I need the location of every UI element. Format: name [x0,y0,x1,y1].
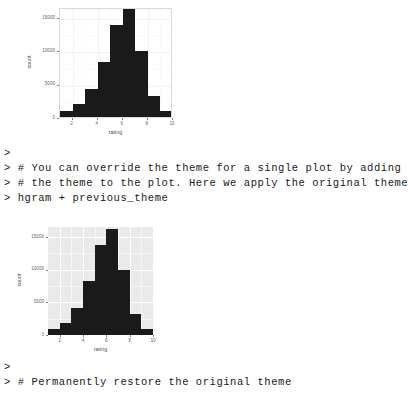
x-axis-tick-mark [72,118,73,120]
x-axis-tick-label: 4 [87,121,107,126]
x-axis-tick-label: 8 [137,121,157,126]
histogram-bar [48,329,60,335]
histogram-bar [160,111,172,117]
y-axis-tick-mark [46,335,48,336]
histogram-bar [60,111,73,117]
console-line: > hgram + previous_theme [4,191,408,206]
x-axis-tick-mark [60,335,61,337]
y-axis-tick-mark [57,51,59,52]
y-axis-tick-mark [57,18,59,19]
x-axis-tick-label: 2 [62,121,82,126]
y-axis-tick-label: 0 [21,115,55,120]
gridline-vertical [73,9,74,117]
x-axis-tick-label: 2 [50,338,70,343]
x-axis-tick-mark [83,335,84,337]
console-line: > # You can override the theme for a sin… [4,161,408,176]
console-line: > # the theme to the plot. Here we apply… [4,176,408,191]
console-line: > [4,360,292,375]
console-block-middle[interactable]: >> # You can override the theme for a si… [4,146,408,206]
x-axis-tick-mark [122,118,123,120]
histogram-bar [110,25,123,117]
x-axis-title: rating [59,129,172,135]
histogram-bar [141,329,153,335]
histogram-bar [135,51,148,117]
x-axis-tick-label: 6 [96,338,116,343]
histogram-plot-bw: 050001000015000246810ratingcount [20,2,180,137]
y-axis-tick-label: 5000 [21,81,55,86]
plot-area-bw: 050001000015000246810ratingcount [20,2,180,137]
x-axis-tick-label: 6 [112,121,132,126]
histogram-bar [106,229,118,335]
y-axis-tick-mark [46,270,48,271]
x-axis-tick-mark [147,118,148,120]
histogram-bar [148,96,161,117]
gridline-horizontal [60,19,171,20]
histogram-bar [71,308,83,335]
histogram-bar [98,62,111,117]
console-block-bottom[interactable]: >> # Permanently restore the original th… [4,360,292,390]
y-axis-tick-mark [46,237,48,238]
x-axis-tick-label: 10 [162,121,182,126]
y-axis-tick-mark [46,302,48,303]
x-axis-tick-mark [97,118,98,120]
y-axis-title: count [26,42,32,82]
y-axis-tick-label: 15000 [21,15,55,20]
x-axis-tick-label: 4 [73,338,93,343]
gridline-horizontal [48,237,153,238]
x-axis-title: rating [48,346,153,352]
x-axis-tick-label: 10 [143,338,163,343]
x-axis-tick-mark [130,335,131,337]
console-line: > # Permanently restore the original the… [4,375,292,390]
histogram-bar [123,9,136,117]
x-axis-tick-label: 8 [120,338,140,343]
plot-panel [59,8,172,118]
x-axis-tick-mark [153,335,154,337]
y-axis-tick-label: 15000 [10,234,44,239]
plot-panel [48,227,153,335]
y-axis-tick-mark [57,85,59,86]
y-axis-title: count [16,260,22,300]
y-axis-tick-mark [57,118,59,119]
histogram-bar [118,270,130,335]
x-axis-tick-mark [172,118,173,120]
histogram-bar [130,314,142,335]
y-axis-tick-label: 0 [10,332,44,337]
histogram-bar [83,281,95,335]
histogram-bar [95,245,107,335]
console-line: > [4,146,408,161]
x-axis-tick-mark [106,335,107,337]
histogram-bar [60,323,72,335]
gridline-vertical [60,227,61,335]
histogram-bar [85,89,98,117]
plot-area-grey: 050001000015000246810ratingcount [8,222,173,352]
histogram-bar [73,104,86,117]
histogram-plot-grey: 050001000015000246810ratingcount [8,222,173,352]
